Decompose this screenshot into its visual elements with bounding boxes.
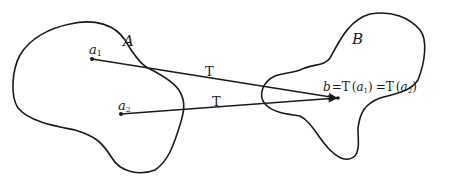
mapping-label-t-lower: T (212, 94, 221, 109)
point-b (336, 96, 340, 100)
mapping-arrow-a1-to-b (92, 59, 337, 98)
image-equation: b=T(a1)=T(a2) (323, 80, 417, 95)
point-a2-label: a2 (118, 98, 131, 114)
set-a-label: A (121, 32, 134, 50)
set-a-region (13, 22, 184, 173)
mapping-diagram: A B a1 a2 T T b=T(a1)=T(a2) (0, 0, 464, 182)
point-a1-label: a1 (89, 42, 102, 58)
mapping-label-t-upper: T (205, 64, 214, 79)
point-a1 (90, 57, 94, 61)
diagram-svg: A B a1 a2 T T b=T(a1)=T(a2) (0, 0, 464, 182)
mapping-arrow-a2-to-b (121, 98, 337, 114)
set-b-label: B (351, 30, 363, 48)
